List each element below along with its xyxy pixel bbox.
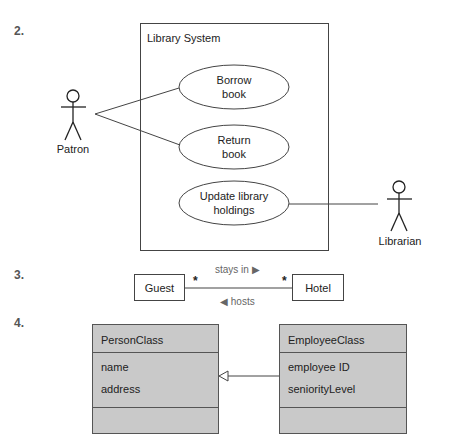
right-multiplicity: * xyxy=(282,274,287,288)
hosts-label: ◀ hosts xyxy=(220,296,255,307)
generalization-arrowhead-icon xyxy=(219,371,228,381)
guest-class-name: Guest xyxy=(134,281,185,295)
patron-borrow-link xyxy=(95,88,179,114)
patron-actor-icon xyxy=(61,90,86,140)
librarian-actor-icon xyxy=(387,181,412,231)
use-case-label-return: Return book xyxy=(179,133,289,161)
employee-class-attributes: employee ID seniorityLevel xyxy=(280,353,406,408)
attribute-address: address xyxy=(101,381,218,403)
use-case-label-borrow: Borrow book xyxy=(179,73,289,101)
use-case-label-update: Update library holdings xyxy=(179,189,289,217)
attribute-employee-id: employee ID xyxy=(288,359,406,381)
hotel-class-name: Hotel xyxy=(292,281,344,295)
employee-class-operations xyxy=(280,408,406,434)
employee-class-name: EmployeeClass xyxy=(280,325,406,353)
system-label: Library System xyxy=(147,31,220,45)
person-class-box: PersonClass name address xyxy=(92,324,219,434)
attribute-seniority-level: seniorityLevel xyxy=(288,381,406,403)
person-class-attributes: name address xyxy=(93,353,218,408)
left-multiplicity: * xyxy=(193,274,198,288)
person-class-operations xyxy=(93,408,218,434)
employee-class-box: EmployeeClass employee ID seniorityLevel xyxy=(279,324,407,434)
patron-label: Patron xyxy=(48,142,98,156)
person-class-name: PersonClass xyxy=(93,325,218,353)
attribute-name: name xyxy=(101,359,218,381)
patron-return-link xyxy=(95,114,180,145)
librarian-label: Librarian xyxy=(372,234,428,248)
stays-in-label: stays in ▶ xyxy=(215,264,260,275)
